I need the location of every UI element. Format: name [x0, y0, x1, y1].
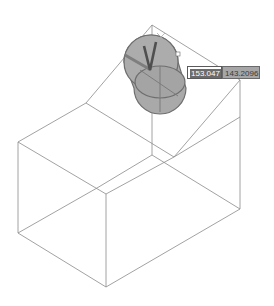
- dynamic-input-field-b[interactable]: 143.2096: [222, 66, 260, 79]
- dynamic-input-value-b: 143.2096: [225, 69, 258, 78]
- dynamic-input-value-a: 153.047: [190, 69, 221, 78]
- rotate-gizmo-icon[interactable]: [124, 35, 186, 114]
- drawing-viewport[interactable]: [0, 0, 274, 306]
- dynamic-input-field-a[interactable]: 153.047: [187, 66, 222, 79]
